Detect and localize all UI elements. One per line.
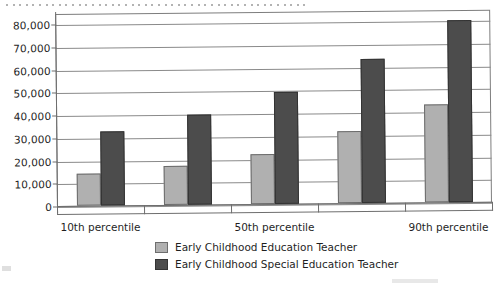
x-axis-category-label: 90th percentile xyxy=(409,221,489,233)
y-axis-tick-label: 80,000 xyxy=(13,19,50,31)
y-tick-mark xyxy=(52,70,57,71)
x-axis-rule xyxy=(57,210,493,215)
y-axis-tick-label: 30,000 xyxy=(14,133,51,145)
bar xyxy=(360,59,385,203)
y-tick-mark xyxy=(51,48,56,49)
scan-artifact-smudge-left xyxy=(2,266,11,271)
chart-legend: Early Childhood Education TeacherEarly C… xyxy=(155,241,398,270)
y-tick-mark xyxy=(53,184,58,185)
bar xyxy=(163,166,187,205)
legend-label: Early Childhood Special Education Teache… xyxy=(175,258,398,270)
x-axis-category-label: 10th percentile xyxy=(61,221,141,233)
bar xyxy=(337,132,362,204)
scan-artifact-smudge-bottom xyxy=(392,279,438,283)
legend-item: Early Childhood Education Teacher xyxy=(155,241,398,253)
x-tick-mark xyxy=(57,206,58,215)
x-tick-mark xyxy=(318,203,319,212)
y-tick-mark xyxy=(53,161,58,162)
y-tick-mark xyxy=(52,138,57,139)
y-axis-tick-label: 60,000 xyxy=(13,65,50,77)
bar xyxy=(187,115,212,205)
y-axis-tick-label: 0 xyxy=(45,201,52,213)
x-tick-mark xyxy=(492,202,493,211)
bar xyxy=(100,132,125,206)
y-tick-mark xyxy=(52,116,57,117)
legend-swatch-icon xyxy=(155,259,168,270)
y-axis-tick-label: 50,000 xyxy=(14,88,51,100)
scan-artifact-dotted-line xyxy=(6,3,306,7)
bar xyxy=(447,20,473,202)
bar xyxy=(76,174,100,206)
x-tick-mark xyxy=(405,203,406,212)
bar xyxy=(250,154,274,204)
legend-item: Early Childhood Special Education Teache… xyxy=(155,258,398,270)
y-axis-tick-label: 20,000 xyxy=(14,156,51,168)
legend-label: Early Childhood Education Teacher xyxy=(175,241,357,253)
y-tick-mark xyxy=(52,93,57,94)
x-tick-mark xyxy=(231,204,232,213)
x-axis-category-label: 50th percentile xyxy=(235,221,315,233)
legend-swatch-icon xyxy=(155,242,168,253)
y-tick-mark xyxy=(51,25,56,26)
y-axis-tick-label: 70,000 xyxy=(13,42,50,54)
bar xyxy=(273,91,298,204)
bar-chart: 010,00020,00030,00040,00050,00060,00070,… xyxy=(55,10,492,207)
y-axis-tick-label: 40,000 xyxy=(14,110,51,122)
bar xyxy=(424,105,449,203)
x-tick-mark xyxy=(144,205,145,214)
y-axis-tick-label: 10,000 xyxy=(14,178,51,190)
